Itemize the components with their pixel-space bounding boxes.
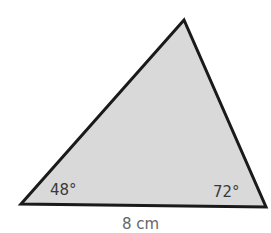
base-side-label: 8 cm <box>122 215 159 233</box>
triangle <box>21 20 266 207</box>
left-angle-label: 48° <box>50 181 77 199</box>
triangle-diagram: 48° 72° 8 cm <box>0 0 271 233</box>
right-angle-label: 72° <box>213 183 240 201</box>
